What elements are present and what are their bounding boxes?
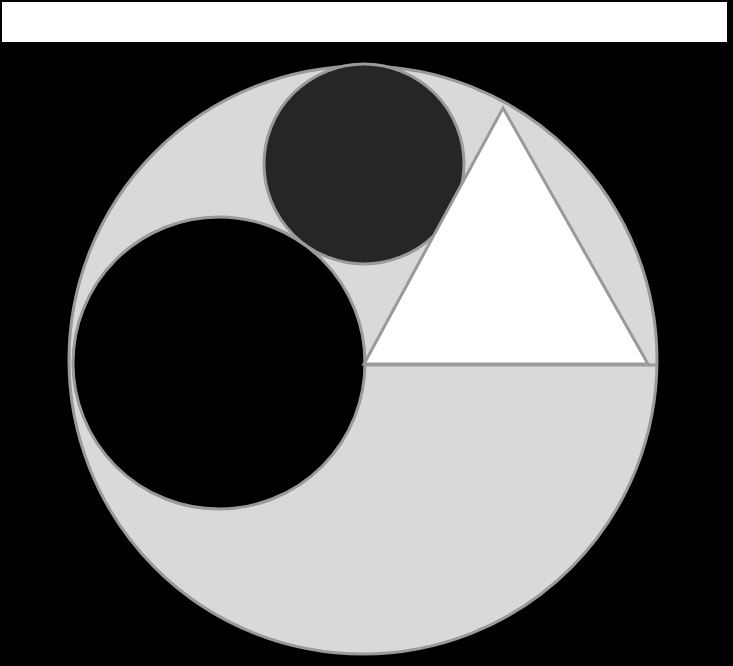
geometric-figure [0, 0, 733, 666]
figure-canvas [0, 0, 733, 666]
large-black-circle [73, 217, 365, 509]
